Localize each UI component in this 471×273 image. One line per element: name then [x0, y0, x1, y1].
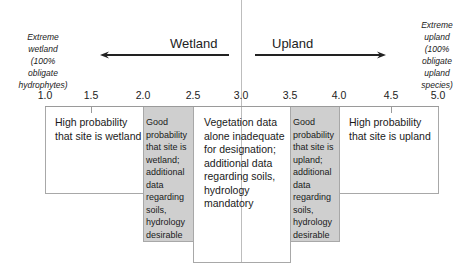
- upland-arrow-shaft: [255, 54, 381, 56]
- axis-line: [45, 106, 439, 107]
- zone-text-line: regarding: [146, 191, 194, 204]
- tick-label-3-0: 3.0: [234, 89, 249, 101]
- zone-text-line: additional data: [204, 157, 292, 171]
- zone-text-line: Good: [146, 116, 194, 129]
- extreme-wetland-line: obligate: [12, 67, 74, 79]
- zone-good-upland: Good probability that site is upland; ad…: [290, 106, 340, 242]
- zone-text-line: High probability: [349, 116, 439, 130]
- tick-label-5-0: 5.0: [431, 89, 446, 101]
- axis-tick-4-5: [391, 106, 392, 113]
- zone-text-line: desirable: [146, 229, 194, 242]
- wetland-arrow-shaft: [104, 54, 229, 56]
- extreme-upland-line: upland: [408, 67, 466, 79]
- extreme-upland-line: Extreme: [408, 19, 466, 31]
- zone-text-line: data: [146, 179, 194, 192]
- tick-label-1-0: 1.0: [38, 89, 53, 101]
- extreme-upland-label: Extreme upland (100% obligate upland spe…: [408, 19, 466, 91]
- tick-label-4-0: 4.0: [332, 89, 347, 101]
- zone-text-line: probability: [146, 129, 194, 142]
- zone-text-line: hydrology: [293, 216, 341, 229]
- zone-high-upland-text: High probability that site is upland: [349, 116, 439, 143]
- extreme-upland-line: (100%: [408, 43, 466, 55]
- zone-text-line: data: [293, 179, 341, 192]
- zone-text-line: soils,: [293, 204, 341, 217]
- zone-text-line: regarding soils,: [204, 170, 292, 184]
- zone-text-line: probability: [293, 129, 341, 142]
- zone-text-line: wetland;: [146, 154, 194, 167]
- arrow-right-icon: [376, 50, 386, 60]
- tick-label-3-5: 3.5: [283, 89, 298, 101]
- zone-text-line: soils,: [146, 204, 194, 217]
- zone-good-wetland-text: Good probability that site is wetland; a…: [146, 116, 194, 241]
- zone-text-line: that site is: [146, 141, 194, 154]
- zone-inadequate: Vegetation data alone inadequate for des…: [193, 106, 291, 263]
- zone-text-line: that site is: [293, 141, 341, 154]
- zone-text-line: hydrology: [204, 184, 292, 198]
- zone-text-line: mandatory: [204, 197, 292, 211]
- zone-good-upland-text: Good probability that site is upland; ad…: [293, 116, 341, 241]
- extreme-upland-line: obligate: [408, 55, 466, 67]
- zone-text-line: desirable: [293, 229, 341, 242]
- upland-direction-label: Upland: [272, 36, 313, 51]
- zone-text-line: additional: [146, 166, 194, 179]
- zone-high-wetland-text: High probability that site is wetland: [55, 116, 145, 143]
- zone-text-line: regarding: [293, 191, 341, 204]
- extreme-wetland-line: Extreme: [12, 31, 74, 43]
- tick-label-2-5: 2.5: [186, 89, 201, 101]
- zone-text-line: Vegetation data: [204, 116, 292, 130]
- zone-text-line: that site is wetland: [55, 130, 145, 144]
- zone-good-wetland: Good probability that site is wetland; a…: [143, 106, 194, 242]
- extreme-wetland-line: (100%: [12, 55, 74, 67]
- tick-label-4-5: 4.5: [384, 89, 399, 101]
- zone-text-line: alone inadequate: [204, 130, 292, 144]
- axis-tick-1-5: [91, 106, 92, 113]
- extreme-wetland-line: wetland: [12, 43, 74, 55]
- zone-text-line: hydrology: [146, 216, 194, 229]
- wetland-direction-label: Wetland: [170, 36, 217, 51]
- zone-text-line: Good: [293, 116, 341, 129]
- extreme-wetland-label: Extreme wetland (100% obligate hydrophyt…: [12, 31, 74, 91]
- zone-text-line: for designation;: [204, 143, 292, 157]
- zone-inadequate-text: Vegetation data alone inadequate for des…: [204, 116, 292, 211]
- zone-text-line: additional: [293, 166, 341, 179]
- zone-high-upland: High probability that site is upland: [339, 106, 439, 194]
- tick-label-2-0: 2.0: [136, 89, 151, 101]
- zone-text-line: that site is upland: [349, 130, 439, 144]
- zone-high-wetland: High probability that site is wetland: [45, 106, 144, 194]
- arrow-left-icon: [100, 50, 110, 60]
- tick-label-1-5: 1.5: [84, 89, 99, 101]
- zone-text-line: High probability: [55, 116, 145, 130]
- extreme-upland-line: upland: [408, 31, 466, 43]
- zone-text-line: upland;: [293, 154, 341, 167]
